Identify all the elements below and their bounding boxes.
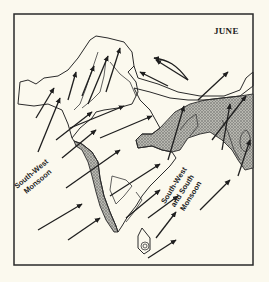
map-title: JUNE <box>214 26 239 36</box>
contour-line <box>110 176 132 204</box>
map-frame <box>14 14 253 265</box>
sri-lanka-contour <box>141 242 149 250</box>
contour-line <box>74 52 98 110</box>
monsoon-map <box>0 0 269 282</box>
shaded-region-east <box>136 94 253 170</box>
shaded-region-west-coast <box>74 141 118 232</box>
northwest-coast <box>18 82 72 138</box>
sri-lanka-contour <box>143 244 147 248</box>
